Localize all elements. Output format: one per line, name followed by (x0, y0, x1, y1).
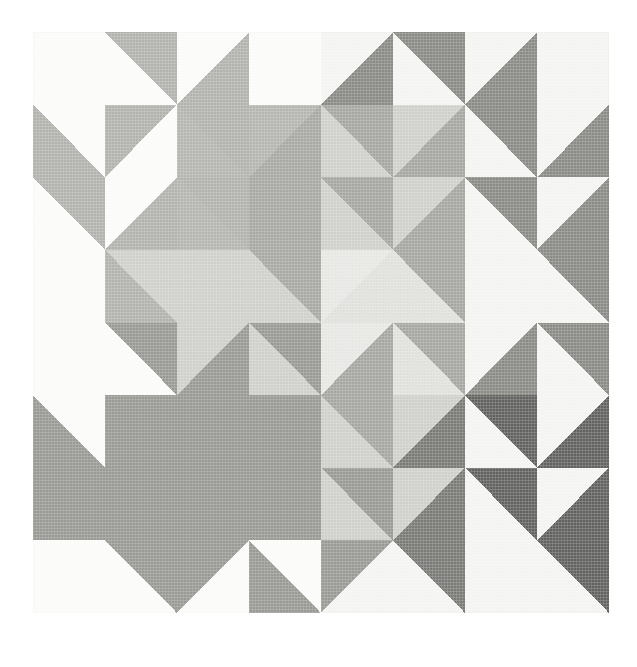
block-r1c3-q-top-right (537, 177, 609, 250)
page-root (0, 0, 637, 667)
block-r2c1-q-top-left (177, 323, 249, 396)
block-r3c3 (465, 468, 609, 613)
block-r2c3 (465, 323, 609, 468)
block-r3c1 (177, 468, 321, 613)
block-r2c3-q-top-right (537, 323, 609, 396)
block-r2c1-q-bottom-left (177, 395, 249, 468)
block-r3c0-q-bottom-right (105, 540, 177, 613)
block-r1c1-q-bottom-left (177, 250, 249, 323)
block-r1c0-q-bottom-right (105, 250, 177, 323)
block-r0c1 (177, 32, 321, 177)
block-r0c3 (465, 32, 609, 177)
block-r0c0-q-bottom-right (105, 105, 177, 178)
block-r2c2-q-top-right (393, 323, 465, 396)
block-r3c0-q-top-right (105, 468, 177, 541)
block-r1c3-q-top-left (465, 177, 537, 250)
block-r3c3-q-bottom-right (537, 540, 609, 613)
block-r3c2-q-top-left (321, 468, 393, 541)
block-r1c1-q-bottom-right (249, 250, 321, 323)
block-r0c2-q-bottom-left (321, 105, 393, 178)
block-r2c2-q-bottom-right (393, 395, 465, 468)
block-r1c1-q-top-right (249, 177, 321, 250)
block-r0c3-q-top-left (465, 32, 537, 105)
block-r0c1-q-top-left (177, 32, 249, 105)
block-r1c0-q-top-right (105, 177, 177, 250)
block-r2c1 (177, 323, 321, 468)
block-r0c3-q-bottom-right (537, 105, 609, 178)
block-r1c3-q-bottom-right (537, 250, 609, 323)
block-r3c0-q-bottom-left (33, 540, 105, 613)
block-r2c0-q-top-left (33, 323, 105, 396)
quilt-blocks-group (33, 32, 609, 613)
block-r0c2-q-top-left (321, 32, 393, 105)
block-r2c2 (321, 323, 465, 468)
block-r2c3-q-top-left (465, 323, 537, 396)
quilt-figure (33, 32, 609, 613)
block-r1c1 (177, 177, 321, 322)
block-r3c1-q-top-left (177, 468, 249, 541)
quilt-canvas (33, 32, 609, 613)
block-r2c0-q-top-right (105, 323, 177, 396)
block-r3c1-q-bottom-left (177, 540, 249, 613)
block-r1c0-q-top-left (33, 177, 105, 250)
block-r0c0 (33, 32, 177, 177)
block-r0c2-q-bottom-right (393, 105, 465, 178)
block-r0c3-q-bottom-left (465, 105, 537, 178)
block-r0c1-q-bottom-left (177, 105, 249, 178)
block-r1c1-q-top-left (177, 177, 249, 250)
block-r2c0-q-bottom-left (33, 395, 105, 468)
block-r0c2 (321, 32, 465, 177)
block-r0c2-q-top-right (393, 32, 465, 105)
block-r3c2-q-bottom-left (321, 540, 393, 613)
block-r0c1-q-top-right (249, 32, 321, 105)
block-r2c2-q-top-left (321, 323, 393, 396)
block-r0c0-q-bottom-left (33, 105, 105, 178)
block-r1c3 (465, 177, 609, 322)
block-r1c2 (321, 177, 465, 322)
block-r2c0-q-bottom-right (105, 395, 177, 468)
block-r3c0 (33, 468, 177, 613)
block-r3c0-q-top-left (33, 468, 105, 541)
block-r3c3-q-top-right (537, 468, 609, 541)
block-r3c1-q-bottom-right (249, 540, 321, 613)
block-r2c3-q-bottom-left (465, 395, 537, 468)
block-r0c1-q-bottom-right (249, 105, 321, 178)
block-r3c3-q-top-left (465, 468, 537, 541)
block-r2c0 (33, 323, 177, 468)
block-r1c2-q-top-right (393, 177, 465, 250)
block-r3c2-q-top-right (393, 468, 465, 541)
block-r2c1-q-top-right (249, 323, 321, 396)
block-r2c1-q-bottom-right (249, 395, 321, 468)
block-r0c0-q-top-right (105, 32, 177, 105)
block-r3c2-q-bottom-right (393, 540, 465, 613)
block-r1c0-q-bottom-left (33, 250, 105, 323)
block-r1c2-q-top-left (321, 177, 393, 250)
block-r0c3-q-top-right (537, 32, 609, 105)
block-r1c2-q-bottom-left (321, 250, 393, 323)
block-r3c2 (321, 468, 465, 613)
block-r2c3-q-bottom-right (537, 395, 609, 468)
block-r0c0-q-top-left (33, 32, 105, 105)
block-r1c3-q-bottom-left (465, 250, 537, 323)
block-r3c3-q-bottom-left (465, 540, 537, 613)
block-r3c1-q-top-right (249, 468, 321, 541)
block-r1c0 (33, 177, 177, 322)
block-r1c2-q-bottom-right (393, 250, 465, 323)
block-r2c2-q-bottom-left (321, 395, 393, 468)
